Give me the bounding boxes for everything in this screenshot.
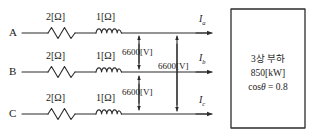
voltage-label-ab: 6600[V] (122, 48, 153, 57)
current-subscript-b: b (202, 58, 205, 65)
resistor-label-a: 2[Ω] (46, 12, 65, 22)
load-line-power: 850[kW] (231, 67, 305, 81)
inductor-label-c: 1[Ω] (96, 93, 115, 103)
resistor-label-b: 2[Ω] (46, 51, 65, 61)
circuit-diagram-canvas: A B C 2[Ω] 2[Ω] 2[Ω] 1[Ω] 1[Ω] 1[Ω] 6600… (0, 0, 314, 136)
voltage-label-bc: 6600[V] (122, 88, 153, 97)
inductor-label-a: 1[Ω] (96, 12, 115, 22)
phase-a-line (22, 28, 209, 39)
load-description: 3상 부하 850[kW] cosθ = 0.8 (231, 53, 305, 94)
current-label-a: Ia (199, 14, 206, 27)
powerfactor-value: = 0.8 (266, 82, 288, 92)
cos-prefix: cos (248, 82, 261, 92)
load-line-powerfactor: cosθ = 0.8 (231, 81, 305, 95)
phase-label-b: B (9, 66, 16, 77)
current-subscript-a: a (202, 19, 205, 26)
current-subscript-c: c (202, 100, 205, 107)
voltage-label-ac: 6600[V] (158, 62, 189, 71)
phase-label-a: A (9, 27, 17, 38)
resistor-label-c: 2[Ω] (46, 93, 65, 103)
phase-c-line (22, 109, 209, 120)
phase-label-c: C (9, 108, 16, 119)
current-label-c: Ic (199, 95, 205, 108)
current-label-b: Ib (199, 53, 206, 66)
inductor-label-b: 1[Ω] (96, 51, 115, 61)
load-line-type: 3상 부하 (231, 53, 305, 67)
